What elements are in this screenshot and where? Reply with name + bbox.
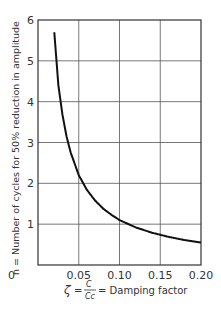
x-tick-label: 0.10 [107, 269, 132, 282]
fraction-numerator: C [86, 280, 92, 289]
x-tick-label: 0.15 [148, 269, 173, 282]
equals-sign: = [74, 285, 82, 296]
data-curve [54, 32, 201, 242]
fraction-denominator: Cc [85, 292, 96, 301]
y-tick-label: 2 [27, 177, 34, 190]
damping-factor-text: = Damping factor [98, 285, 188, 296]
grid-lines [38, 20, 201, 265]
y-tick-labels: 123456 [27, 14, 34, 231]
y-tick-label: 4 [27, 96, 34, 109]
zeta-symbol: ζ [63, 283, 72, 297]
y-tick-label: 3 [27, 137, 34, 150]
x-tick-labels: 00.050.100.150.20 [8, 269, 213, 282]
y-tick-label: 1 [27, 218, 34, 231]
y-tick-label: 6 [27, 14, 34, 27]
x-axis-label: ζ = C Cc = Damping factor [63, 280, 188, 301]
y-tick-label: 5 [27, 55, 34, 68]
x-tick-label: 0.20 [189, 269, 214, 282]
y-axis-label: n = Number of cycles for 50% reduction i… [10, 21, 21, 275]
damping-chart: 123456 00.050.100.150.20 n = Number of c… [0, 0, 221, 310]
